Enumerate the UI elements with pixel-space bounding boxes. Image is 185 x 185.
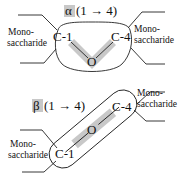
beta-right-group-line1: Mono- (137, 88, 163, 98)
beta-left-lower-connector (22, 161, 56, 172)
alpha-left-group-line2: saccharide (7, 38, 47, 48)
alpha-oxygen-label: O (87, 54, 96, 69)
glycosidic-bond-diagram: α (1 → 4) C-1 C-4 O Mono- saccharide Mon… (0, 0, 185, 185)
beta-linkage-label: (1 → 4) (44, 98, 85, 113)
beta-c4-label: C-4 (112, 99, 132, 114)
beta-oxygen-label: O (87, 122, 96, 137)
alpha-left-lower-connector (20, 49, 56, 63)
beta-left-group-line2: saccharide (8, 150, 48, 160)
beta-symbol: β (33, 98, 40, 113)
alpha-linkage-label: (1 → 4) (76, 3, 117, 18)
alpha-right-group-line2: saccharide (134, 35, 174, 45)
alpha-left-group-line1: Mono- (8, 27, 34, 37)
beta-left-group-line1: Mono- (10, 139, 36, 149)
beta-linkage-panel: β (1 → 4) C-4 C-1 O Mono- saccharide Mon… (8, 84, 177, 174)
alpha-c4-label: C-4 (111, 29, 131, 44)
beta-right-group-line2: saccharide (137, 99, 177, 109)
alpha-right-group-line1: Mono- (134, 24, 160, 34)
alpha-linkage-panel: α (1 → 4) C-1 C-4 O Mono- saccharide Mon… (7, 3, 174, 72)
beta-right-lower-connector (134, 110, 165, 121)
alpha-right-lower-connector (131, 48, 165, 64)
alpha-symbol: α (65, 3, 72, 18)
alpha-c1-label: C-1 (53, 29, 73, 44)
beta-c1-label: C-1 (55, 146, 75, 161)
